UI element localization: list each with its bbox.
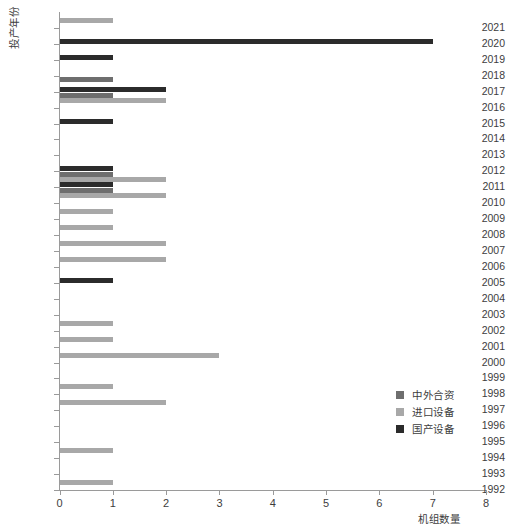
- y-axis-tick-label: 2010: [457, 197, 505, 208]
- y-axis-tick-label: 2009: [457, 213, 505, 224]
- y-axis-tick-label: 2016: [457, 102, 505, 113]
- y-axis-tick: [54, 203, 59, 204]
- y-axis-tick-label: 2012: [457, 165, 505, 176]
- x-axis-tick-label: 4: [253, 497, 293, 509]
- x-axis-tick-label: 5: [306, 497, 346, 509]
- y-axis-tick-label: 2008: [457, 229, 505, 240]
- bar: [60, 39, 433, 44]
- chart-legend: 中外合资进口设备国产设备: [396, 386, 454, 437]
- y-axis-tick: [54, 108, 59, 109]
- y-axis-tick: [54, 235, 59, 236]
- bar: [60, 55, 113, 60]
- x-axis-tick: [433, 490, 434, 495]
- y-axis-tick-label: 2014: [457, 133, 505, 144]
- y-axis-tick: [54, 426, 59, 427]
- bar: [60, 337, 113, 342]
- legend-item[interactable]: 进口设备: [396, 403, 454, 420]
- bar: [60, 225, 113, 230]
- y-axis-tick-label: 2020: [457, 38, 505, 49]
- y-axis-tick-label: 2007: [457, 245, 505, 256]
- y-axis-tick-label: 1997: [457, 404, 505, 415]
- legend-item[interactable]: 国产设备: [396, 420, 454, 437]
- legend-item-label: 进口设备: [412, 404, 454, 419]
- y-axis-tick-label: 1995: [457, 436, 505, 447]
- x-axis-tick: [273, 490, 274, 495]
- legend-swatch-icon: [396, 391, 404, 399]
- y-axis-tick: [54, 171, 59, 172]
- y-axis-tick: [54, 378, 59, 379]
- legend-swatch-icon: [396, 425, 404, 433]
- y-axis-tick-label: 2015: [457, 118, 505, 129]
- y-axis-tick: [54, 44, 59, 45]
- x-axis-tick: [379, 490, 380, 495]
- y-axis-title: 投产年份: [6, 0, 21, 63]
- legend-item-label: 国产设备: [412, 421, 454, 436]
- x-axis-tick-label: 2: [146, 497, 186, 509]
- bar: [60, 77, 113, 82]
- y-axis-tick-label: 1993: [457, 468, 505, 479]
- y-axis-tick: [54, 410, 59, 411]
- y-axis-tick: [54, 60, 59, 61]
- y-axis-tick-label: 2021: [457, 22, 505, 33]
- y-axis-tick: [54, 124, 59, 125]
- y-axis-tick: [54, 299, 59, 300]
- y-axis-tick: [54, 331, 59, 332]
- y-axis-tick-label: 1992: [457, 484, 505, 495]
- y-axis-tick-label: 2006: [457, 261, 505, 272]
- x-axis-tick: [486, 490, 487, 495]
- bar: [60, 209, 113, 214]
- y-axis-tick: [54, 76, 59, 77]
- x-axis-tick-label: 6: [359, 497, 399, 509]
- y-axis-tick-label: 1998: [457, 388, 505, 399]
- y-axis-tick: [54, 490, 59, 491]
- bar: [60, 18, 113, 23]
- y-axis-tick-label: 2011: [457, 181, 505, 192]
- y-axis-tick-label: 1999: [457, 372, 505, 383]
- bar: [60, 166, 113, 171]
- x-axis-title: 机组数量: [418, 511, 460, 526]
- x-axis-tick: [113, 490, 114, 495]
- legend-item-label: 中外合资: [412, 387, 454, 402]
- bar: [60, 98, 167, 103]
- y-axis-tick-label: 2013: [457, 149, 505, 160]
- bar: [60, 353, 220, 358]
- y-axis-tick-label: 1994: [457, 452, 505, 463]
- bar: [60, 241, 167, 246]
- y-axis-tick: [54, 442, 59, 443]
- legend-item[interactable]: 中外合资: [396, 386, 454, 403]
- bar: [60, 87, 167, 92]
- y-axis-tick: [54, 347, 59, 348]
- y-axis-tick: [54, 139, 59, 140]
- y-axis-tick-label: 1996: [457, 420, 505, 431]
- y-axis-line: [59, 12, 60, 490]
- x-axis-tick-label: 3: [199, 497, 239, 509]
- bar: [60, 278, 113, 283]
- x-axis-tick-label: 0: [40, 497, 80, 509]
- bar: [60, 182, 113, 187]
- y-axis-tick-label: 2001: [457, 341, 505, 352]
- y-axis-tick-label: 2003: [457, 309, 505, 320]
- y-axis-tick: [54, 155, 59, 156]
- y-axis-tick-label: 2002: [457, 325, 505, 336]
- x-axis-tick: [60, 490, 61, 495]
- y-axis-tick: [54, 283, 59, 284]
- y-axis-tick: [54, 267, 59, 268]
- y-axis-tick: [54, 458, 59, 459]
- y-axis-tick: [54, 187, 59, 188]
- bar: [60, 400, 167, 405]
- y-axis-tick: [54, 28, 59, 29]
- y-axis-tick-label: 2000: [457, 357, 505, 368]
- y-axis-tick-label: 2018: [457, 70, 505, 81]
- y-axis-tick-label: 2005: [457, 277, 505, 288]
- y-axis-tick: [54, 363, 59, 364]
- bar: [60, 257, 167, 262]
- legend-swatch-icon: [396, 408, 404, 416]
- y-axis-tick: [54, 251, 59, 252]
- x-axis-tick-label: 8: [466, 497, 506, 509]
- y-axis-tick: [54, 474, 59, 475]
- y-axis-tick-label: 2004: [457, 293, 505, 304]
- y-axis-tick: [54, 315, 59, 316]
- bar: [60, 321, 113, 326]
- y-axis-tick-label: 2017: [457, 86, 505, 97]
